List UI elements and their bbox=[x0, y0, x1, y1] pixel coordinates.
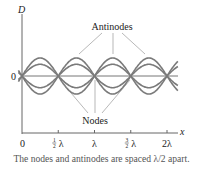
x-tick-label: 2λ bbox=[162, 138, 172, 149]
node-pointer bbox=[102, 80, 130, 113]
svg-text:λ: λ bbox=[59, 138, 64, 149]
svg-text:2: 2 bbox=[53, 143, 56, 149]
antinodes-label: Antinodes bbox=[91, 21, 132, 32]
standing-wave-diagram: D x 0 Antinodes Nodes 12λλ32λ2λ 0 bbox=[0, 0, 203, 169]
antinode-pointers bbox=[79, 33, 145, 54]
svg-text:λ: λ bbox=[92, 138, 97, 149]
x-axis-label: x bbox=[179, 126, 185, 137]
x-tick-label: 32λ bbox=[125, 137, 137, 149]
figure-caption: The nodes and antinodes are spaced λ/2 a… bbox=[0, 153, 203, 164]
y-axis-label: D bbox=[17, 4, 26, 15]
svg-text:2: 2 bbox=[125, 143, 128, 149]
svg-text:λ: λ bbox=[131, 138, 136, 149]
x-tick-label: λ bbox=[92, 138, 97, 149]
antinode-pointer bbox=[79, 33, 102, 54]
nodes-label: Nodes bbox=[82, 115, 108, 126]
antinode-pointer bbox=[122, 33, 145, 54]
origin-label: 0 bbox=[11, 71, 16, 82]
svg-text:2λ: 2λ bbox=[162, 138, 172, 149]
x-tick-label: 12λ bbox=[52, 137, 64, 149]
x-tick-label-zero: 0 bbox=[20, 138, 25, 149]
